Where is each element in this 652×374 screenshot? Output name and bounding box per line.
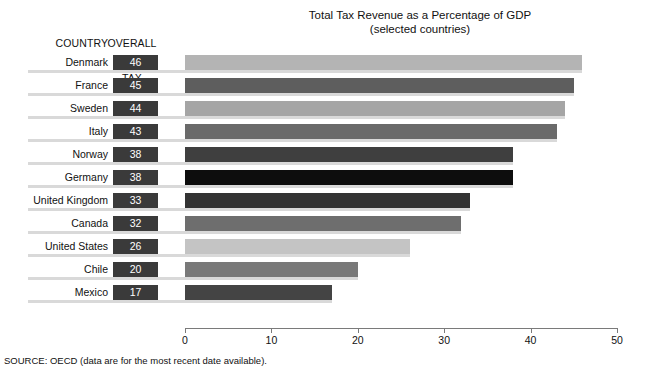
bar-row: 17Mexico — [0, 285, 652, 308]
bar — [185, 170, 513, 185]
row-shadow — [28, 70, 582, 73]
bar — [185, 216, 461, 231]
row-shadow — [28, 208, 470, 211]
country-label: Canada — [28, 216, 108, 231]
bar — [185, 78, 574, 93]
value-gap — [158, 170, 185, 185]
country-label: United Kingdom — [28, 193, 108, 208]
value-gap — [158, 193, 185, 208]
row-shadow — [28, 254, 410, 257]
bar — [185, 262, 358, 277]
value-gap — [158, 262, 185, 277]
bar — [185, 147, 513, 162]
x-axis-tick-label: 0 — [170, 334, 200, 346]
bar-row: 38Germany — [0, 170, 652, 193]
tax-burden-value: 38 — [113, 147, 158, 162]
bar-row: 44Sweden — [0, 101, 652, 124]
x-axis-tick — [358, 328, 359, 333]
chart-subtitle: (selected countries) — [200, 22, 640, 36]
tax-burden-value: 43 — [113, 124, 158, 139]
tax-burden-value: 33 — [113, 193, 158, 208]
bar — [185, 101, 565, 116]
country-label: Chile — [28, 262, 108, 277]
value-gap — [158, 285, 185, 300]
row-shadow — [28, 300, 332, 303]
bar-row: 38Norway — [0, 147, 652, 170]
row-shadow — [28, 93, 574, 96]
x-axis-tick-label: 10 — [256, 334, 286, 346]
bar — [185, 124, 557, 139]
row-shadow — [28, 116, 565, 119]
column-header-country: COUNTRY — [0, 38, 108, 50]
country-label: Germany — [28, 170, 108, 185]
country-label: United States — [28, 239, 108, 254]
country-label: Sweden — [28, 101, 108, 116]
tax-burden-value: 45 — [113, 78, 158, 93]
bar-row: 45France — [0, 78, 652, 101]
row-shadow — [28, 139, 557, 142]
country-label: Mexico — [28, 285, 108, 300]
country-label: France — [28, 78, 108, 93]
value-gap — [158, 216, 185, 231]
x-axis-tick-label: 40 — [516, 334, 546, 346]
bar-row: 32Canada — [0, 216, 652, 239]
tax-burden-value: 20 — [113, 262, 158, 277]
bar-row: 33United Kingdom — [0, 193, 652, 216]
row-shadow — [28, 185, 513, 188]
tax-burden-value: 26 — [113, 239, 158, 254]
bar — [185, 55, 582, 70]
x-axis-tick-label: 20 — [343, 334, 373, 346]
tax-burden-value: 17 — [113, 285, 158, 300]
tax-burden-value: 46 — [113, 55, 158, 70]
x-axis-tick — [444, 328, 445, 333]
row-shadow — [28, 162, 513, 165]
x-axis-tick-label: 50 — [602, 334, 632, 346]
bar — [185, 193, 470, 208]
tax-burden-value: 32 — [113, 216, 158, 231]
value-gap — [158, 239, 185, 254]
bar-row: 20Chile — [0, 262, 652, 285]
row-shadow — [28, 277, 358, 280]
bar — [185, 285, 332, 300]
column-header-overall-line: OVERALL — [104, 38, 160, 50]
tax-burden-value: 38 — [113, 170, 158, 185]
chart-title: Total Tax Revenue as a Percentage of GDP — [200, 8, 640, 22]
row-shadow — [28, 231, 461, 234]
bar — [185, 239, 410, 254]
bar-rows: 46Denmark45France44Sweden43Italy38Norway… — [0, 55, 652, 308]
country-label: Italy — [28, 124, 108, 139]
value-gap — [158, 78, 185, 93]
country-label: Denmark — [28, 55, 108, 70]
value-gap — [158, 101, 185, 116]
x-axis: 01020304050 — [0, 328, 652, 352]
x-axis-tick — [617, 328, 618, 333]
x-axis-tick-label: 30 — [429, 334, 459, 346]
bar-row: 46Denmark — [0, 55, 652, 78]
source-note: SOURCE: OECD (data are for the most rece… — [4, 355, 267, 366]
bar-row: 43Italy — [0, 124, 652, 147]
x-axis-line — [185, 328, 617, 329]
value-gap — [158, 55, 185, 70]
tax-revenue-chart: COUNTRY OVERALL TAX BURDEN Total Tax Rev… — [0, 0, 652, 374]
value-gap — [158, 147, 185, 162]
value-gap — [158, 124, 185, 139]
country-label: Norway — [28, 147, 108, 162]
x-axis-tick — [531, 328, 532, 333]
x-axis-tick — [271, 328, 272, 333]
tax-burden-value: 44 — [113, 101, 158, 116]
bar-row: 26United States — [0, 239, 652, 262]
x-axis-tick — [185, 328, 186, 333]
